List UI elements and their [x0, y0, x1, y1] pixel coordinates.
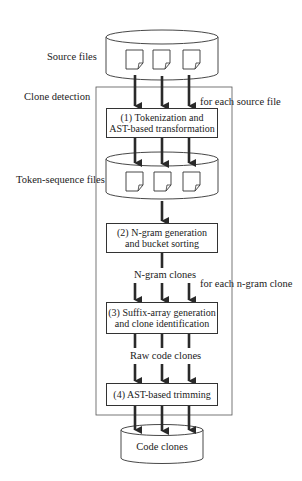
step-1-line-1: (1) Tokenization and: [121, 112, 204, 123]
arrows-raw-to-step4: [135, 364, 189, 381]
token-sequence-files-label: Token-sequence files: [16, 175, 105, 186]
code-clones-label: Code clones: [121, 441, 203, 452]
ngram-clones-label: N-gram clones: [133, 270, 197, 281]
document-icon: [183, 50, 200, 69]
document-icon: [153, 50, 170, 69]
step-4-trimming-box: (4) AST-based trimming: [106, 383, 218, 406]
for-each-ngram-clone-label: for each n-gram clone: [200, 279, 292, 290]
document-icon: [183, 172, 200, 191]
step-2-line-2: and bucket sorting: [125, 238, 199, 249]
step-4-line-1: (4) AST-based trimming: [113, 389, 210, 400]
step-3-line-1: (3) Suffix-array generation: [108, 307, 216, 318]
step-2-ngram-box: (2) N-gram generation and bucket sorting: [106, 223, 218, 253]
step-2-line-1: (2) N-gram generation: [117, 227, 207, 238]
document-icon: [126, 172, 143, 191]
step-1-tokenization-box: (1) Tokenization and AST-based transform…: [106, 108, 218, 138]
step-3-line-2: and clone identification: [115, 318, 209, 329]
document-icon: [154, 172, 171, 191]
clone-detection-label: Clone detection: [24, 92, 90, 103]
arrows-ngram-to-step3: [135, 283, 189, 300]
document-icon: [126, 50, 143, 69]
step-3-suffix-array-box: (3) Suffix-array generation and clone id…: [106, 302, 218, 334]
source-files-label: Source files: [47, 52, 97, 63]
for-each-source-file-label: for each source file: [200, 97, 281, 108]
connectors-step3-to-raw: [135, 334, 189, 348]
raw-code-clones-label: Raw code clones: [129, 351, 202, 362]
step-1-line-2: AST-based transformation: [109, 123, 214, 134]
